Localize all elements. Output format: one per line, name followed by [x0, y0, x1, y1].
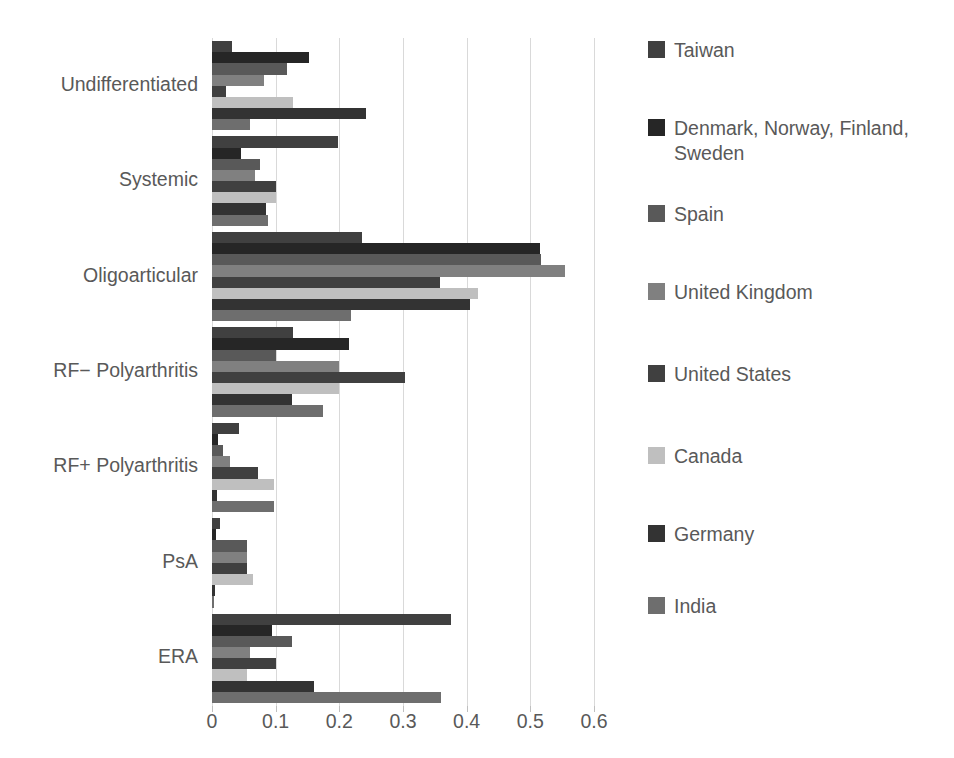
bar-germany-rf-polyarthritis: [212, 394, 292, 405]
legend-item-canada[interactable]: Canada: [648, 444, 948, 469]
bar-row: [212, 350, 594, 361]
x-tick-label: 0.4: [453, 710, 480, 733]
bar-united-kingdom-rf-polyarthritis: [212, 456, 230, 467]
bar-denmark-norway-finland-sweden-era: [212, 625, 272, 636]
legend-item-denmark-norway-finland-sweden[interactable]: Denmark, Norway, Finland, Sweden: [648, 116, 948, 166]
bar-row: [212, 692, 594, 703]
bar-canada-era: [212, 669, 247, 680]
bar-denmark-norway-finland-sweden-rf-polyarthritis: [212, 338, 349, 349]
legend-item-united-states[interactable]: United States: [648, 362, 948, 387]
bar-row: [212, 563, 594, 574]
bar-row: [212, 97, 594, 108]
legend-label: United States: [674, 362, 791, 387]
bar-india-rf-polyarthritis: [212, 501, 274, 512]
y-tick-label: Undifferentiated: [16, 73, 212, 96]
bar-united-kingdom-psa: [212, 552, 247, 563]
legend-label: Taiwan: [674, 38, 735, 63]
bar-spain-rf-polyarthritis: [212, 445, 223, 456]
x-axis-label-group: 00.10.20.30.40.50.6: [212, 710, 594, 744]
category-group: [212, 423, 594, 512]
bar-row: [212, 383, 594, 394]
legend-swatch-icon: [648, 525, 665, 542]
bar-taiwan-systemic: [212, 136, 338, 147]
bar-row: [212, 299, 594, 310]
bar-india-systemic: [212, 215, 268, 226]
bar-row: [212, 361, 594, 372]
bar-row: [212, 75, 594, 86]
bar-germany-undifferentiated: [212, 108, 366, 119]
bar-spain-era: [212, 636, 292, 647]
bar-row: [212, 479, 594, 490]
x-tick-label: 0.5: [517, 710, 544, 733]
bar-row: [212, 136, 594, 147]
bar-row: [212, 636, 594, 647]
legend-item-united-kingdom[interactable]: United Kingdom: [648, 280, 948, 305]
bar-row: [212, 288, 594, 299]
legend-item-india[interactable]: India: [648, 594, 948, 619]
bar-canada-psa: [212, 574, 253, 585]
category-group: [212, 41, 594, 130]
legend-swatch-icon: [648, 41, 665, 58]
bar-united-states-undifferentiated: [212, 86, 226, 97]
bar-row: [212, 170, 594, 181]
legend-label: Canada: [674, 444, 742, 469]
bar-row: [212, 585, 594, 596]
y-tick-label: Oligoarticular: [16, 264, 212, 287]
bar-canada-undifferentiated: [212, 97, 293, 108]
bar-row: [212, 423, 594, 434]
bar-chart: UndifferentiatedSystemicOligoarticularRF…: [0, 0, 954, 758]
x-tick-label: 0.2: [326, 710, 353, 733]
bar-row: [212, 669, 594, 680]
bar-row: [212, 265, 594, 276]
bar-spain-systemic: [212, 159, 260, 170]
bar-row: [212, 203, 594, 214]
bar-united-kingdom-systemic: [212, 170, 255, 181]
legend-item-germany[interactable]: Germany: [648, 522, 948, 547]
legend-label: Denmark, Norway, Finland, Sweden: [674, 116, 948, 166]
bar-row: [212, 148, 594, 159]
bar-row: [212, 159, 594, 170]
bar-germany-era: [212, 681, 314, 692]
bar-spain-psa: [212, 540, 247, 551]
bar-denmark-norway-finland-sweden-oligoarticular: [212, 243, 540, 254]
legend-label: United Kingdom: [674, 280, 813, 305]
bar-taiwan-rf-polyarthritis: [212, 423, 239, 434]
bar-canada-systemic: [212, 192, 276, 203]
bar-row: [212, 215, 594, 226]
bar-row: [212, 529, 594, 540]
bar-row: [212, 63, 594, 74]
bar-row: [212, 596, 594, 607]
legend-swatch-icon: [648, 365, 665, 382]
bar-india-era: [212, 692, 441, 703]
bar-taiwan-rf-polyarthritis: [212, 327, 293, 338]
x-tick-label: 0: [207, 710, 218, 733]
bar-taiwan-undifferentiated: [212, 41, 232, 52]
bar-united-kingdom-rf-polyarthritis: [212, 361, 339, 372]
bar-united-states-rf-polyarthritis: [212, 467, 258, 478]
bar-spain-rf-polyarthritis: [212, 350, 276, 361]
bar-row: [212, 434, 594, 445]
y-axis-label-group: UndifferentiatedSystemicOligoarticularRF…: [0, 38, 212, 706]
bar-row: [212, 394, 594, 405]
bar-row: [212, 254, 594, 265]
bar-united-states-era: [212, 658, 276, 669]
bar-row: [212, 681, 594, 692]
bar-united-kingdom-oligoarticular: [212, 265, 565, 276]
legend-item-spain[interactable]: Spain: [648, 202, 948, 227]
legend-item-taiwan[interactable]: Taiwan: [648, 38, 948, 63]
bar-canada-rf-polyarthritis: [212, 479, 274, 490]
bar-row: [212, 490, 594, 501]
gridline-0.6: [594, 38, 595, 706]
category-group: [212, 327, 594, 416]
bar-germany-systemic: [212, 203, 266, 214]
bar-row: [212, 405, 594, 416]
bar-india-undifferentiated: [212, 119, 250, 130]
bar-row: [212, 243, 594, 254]
bar-row: [212, 277, 594, 288]
bar-row: [212, 119, 594, 130]
bar-row: [212, 647, 594, 658]
bar-united-kingdom-era: [212, 647, 250, 658]
bar-denmark-norway-finland-sweden-undifferentiated: [212, 52, 309, 63]
bar-row: [212, 41, 594, 52]
bar-row: [212, 625, 594, 636]
